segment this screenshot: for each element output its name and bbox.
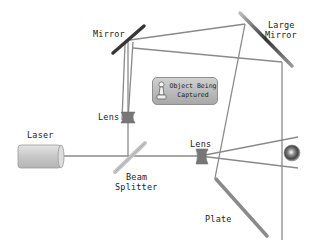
object-sphere-icon — [284, 145, 300, 161]
object-label-line2: Captured — [169, 91, 217, 100]
lens-upper-label: Lens — [98, 112, 119, 122]
chess-pawn-icon — [156, 81, 167, 101]
beam-splitter-label-line2: Splitter — [115, 182, 158, 192]
beam-splitter-label-line1: Beam — [126, 172, 147, 182]
object-being-captured-badge: Object Being Captured — [152, 77, 218, 105]
mirror-label: Mirror — [93, 29, 125, 39]
plate-label: Plate — [205, 214, 232, 224]
large-mirror-label-line2: Mirror — [265, 30, 297, 40]
laser-label: Laser — [27, 130, 54, 140]
beam-paths — [63, 24, 298, 240]
lens-upper-icon — [121, 112, 135, 123]
large-mirror-label-line1: Large — [268, 20, 295, 30]
object-label-line1: Object Being — [169, 82, 217, 91]
lens-lower-label: Lens — [190, 139, 211, 149]
lens-lower-icon — [196, 149, 208, 164]
photographic-plate — [216, 179, 267, 236]
laser-icon — [18, 145, 64, 168]
